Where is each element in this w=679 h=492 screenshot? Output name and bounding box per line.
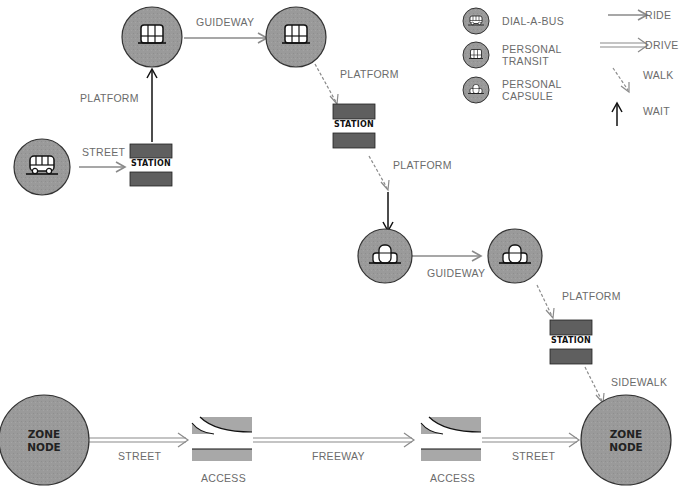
station-3-label: STATION	[550, 336, 592, 345]
zone-node-right-label: ZONE NODE	[596, 428, 656, 454]
personal-capsule-node-2	[488, 229, 542, 283]
legend-dial-a-bus-label: DIAL-A-BUS	[502, 15, 564, 27]
label-platform-3: PLATFORM	[393, 159, 452, 171]
legend-personal-capsule-icon	[463, 77, 489, 103]
label-platform-1: PLATFORM	[80, 92, 139, 104]
legend-wait-label: WAIT	[643, 105, 670, 117]
legend-personal-transit-icon	[463, 42, 489, 68]
legend-personal-capsule-label: PERSONAL CAPSULE	[502, 78, 562, 102]
legend-walk-label: WALK	[643, 69, 674, 81]
dial-a-bus-node	[14, 139, 70, 195]
label-platform-2: PLATFORM	[340, 68, 399, 80]
label-access-2: ACCESS	[430, 472, 475, 484]
label-access-1: ACCESS	[201, 472, 246, 484]
label-sidewalk: SIDEWALK	[611, 376, 667, 388]
personal-transit-node-1	[122, 7, 182, 67]
zone-node-left-label: ZONE NODE	[14, 428, 74, 454]
legend-ride-label: RIDE	[645, 9, 671, 21]
label-street-2: STREET	[118, 450, 161, 462]
label-guideway-1: GUIDEWAY	[196, 16, 254, 28]
access-ramp-1	[192, 417, 252, 461]
label-street-3: STREET	[512, 450, 555, 462]
station-2-label: STATION	[333, 120, 375, 129]
personal-transit-node-2	[266, 7, 326, 67]
legend-personal-transit-label: PERSONAL TRANSIT	[502, 43, 562, 67]
legend-drive-label: DRIVE	[645, 39, 679, 51]
personal-capsule-node-1	[358, 229, 412, 283]
label-guideway-2: GUIDEWAY	[427, 267, 485, 279]
label-freeway: FREEWAY	[312, 450, 365, 462]
station-1-label: STATION	[130, 159, 172, 168]
legend-dial-a-bus-icon	[463, 8, 489, 34]
label-street-1: STREET	[82, 146, 125, 158]
label-platform-4: PLATFORM	[562, 290, 621, 302]
access-ramp-2	[421, 417, 481, 461]
